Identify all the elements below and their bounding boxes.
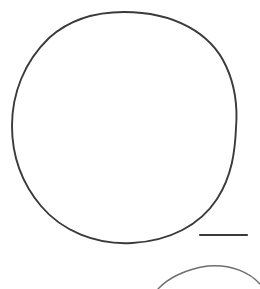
line-drawing-canvas [0,0,260,289]
figure-container [0,0,260,289]
figure-background [0,0,260,289]
